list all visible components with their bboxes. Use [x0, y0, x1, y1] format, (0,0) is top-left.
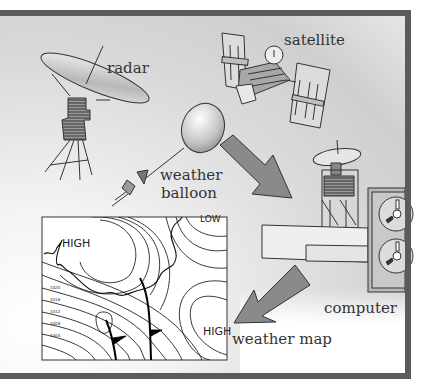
frame-right [405, 10, 411, 379]
arrow-to-map-icon [234, 265, 310, 323]
frame-bottom [0, 373, 411, 379]
isobar-label: 1016 [50, 297, 61, 302]
station-radar-icon [312, 140, 362, 230]
diagram-canvas: 1020 1016 1012 1008 1004 HIGH LOW HIGH r… [0, 0, 431, 388]
label-computer: computer [324, 300, 397, 316]
label-radar: radar [107, 60, 149, 76]
isobar-label: 1008 [50, 321, 61, 326]
frame-top [0, 10, 411, 16]
label-weather-balloon-2: balloon [161, 185, 217, 201]
isobar-label: 1004 [50, 333, 61, 338]
isobar-label: 1020 [50, 285, 61, 290]
arrow-to-computer-icon [220, 135, 292, 198]
map-label-high-top: HIGH [62, 237, 90, 250]
map-label-high-bottom: HIGH [203, 325, 231, 338]
label-weather-balloon-1: weather [160, 167, 222, 183]
label-satellite: satellite [284, 32, 345, 48]
label-weather-map: weather map [232, 331, 332, 347]
map-label-low: LOW [200, 214, 221, 224]
weather-map: 1020 1016 1012 1008 1004 HIGH LOW HIGH [42, 214, 231, 360]
isobar-label: 1012 [50, 309, 61, 314]
